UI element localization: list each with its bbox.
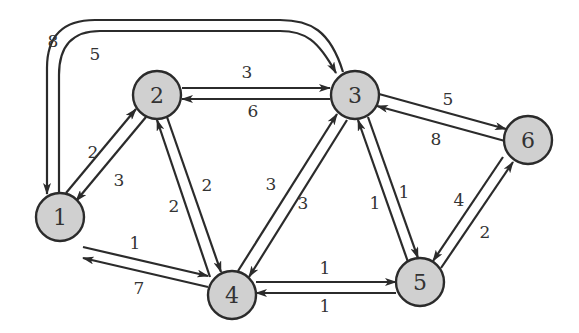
edge-4-to-3 [238,114,337,271]
weight-2-to-3: 3 [242,62,253,82]
node-5-label: 5 [413,270,427,295]
weight-3-to-1: 8 [48,31,59,51]
weight-4-to-3: 3 [266,174,277,194]
weight-1-to-4: 1 [130,233,141,253]
edge-2-to-4 [167,117,221,272]
node-1-label: 1 [53,205,67,230]
weight-4-to-2: 2 [169,196,180,216]
weight-3-to-4: 3 [298,193,309,213]
weight-5-to-4: 1 [320,296,331,316]
weight-3-to-5: 1 [399,182,410,202]
edge-1-to-3 [59,31,336,193]
node-4-label: 4 [225,283,239,308]
node-2: 2 [133,71,181,119]
weight-6-to-5: 4 [454,190,465,210]
weight-2-to-1: 3 [114,170,125,190]
edge-6-to-5 [433,157,503,261]
edge-4-to-2 [157,120,210,277]
graph-diagram: 8 5 2 3 3 6 2 2 3 3 1 1 5 8 2 4 1 7 1 1 … [0,0,579,333]
weight-4-to-5: 1 [320,258,331,278]
edge-2-to-1 [76,117,146,201]
node-2-label: 2 [150,83,164,108]
weight-1-to-3: 5 [90,44,101,64]
weight-3-to-2: 6 [248,101,259,121]
node-3: 3 [331,71,379,119]
node-1: 1 [36,193,84,241]
node-3-label: 3 [348,83,362,108]
edge-5-to-6 [441,162,513,268]
weight-2-to-4: 2 [202,175,213,195]
weight-5-to-3: 1 [370,193,381,213]
weight-4-to-1: 7 [134,278,145,298]
weight-5-to-6: 2 [480,222,491,242]
weight-1-to-2: 2 [88,142,99,162]
node-5: 5 [396,258,444,306]
node-6: 6 [504,116,552,164]
node-4: 4 [208,271,256,319]
weight-3-to-6: 5 [443,89,454,109]
edge-1-to-2 [66,109,136,193]
node-6-label: 6 [521,128,535,153]
weight-6-to-3: 8 [431,129,442,149]
edge-3-to-5 [368,117,418,258]
